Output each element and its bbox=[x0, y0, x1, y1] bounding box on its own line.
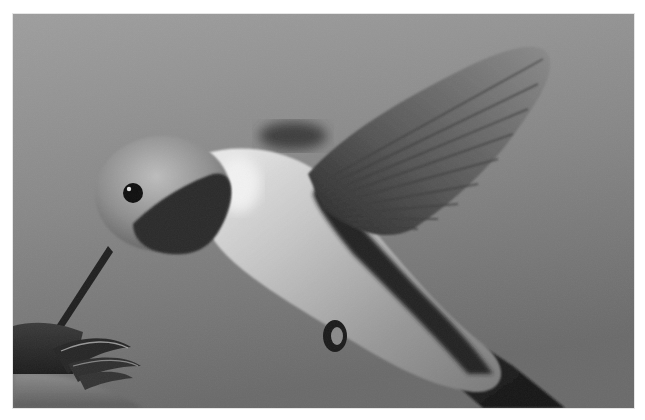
hummingbird-photo: Grayscale photograph of a hummingbird ho… bbox=[13, 14, 634, 408]
photo-frame: Grayscale photograph of a hummingbird ho… bbox=[0, 0, 645, 420]
grain-overlay bbox=[13, 14, 634, 408]
photo-canvas bbox=[13, 14, 634, 408]
